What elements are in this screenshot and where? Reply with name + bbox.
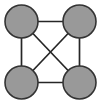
graph-node-top-right [63, 5, 96, 38]
graph-node-bottom-left [5, 66, 38, 99]
graph-figure [0, 0, 101, 107]
graph-canvas [0, 0, 101, 107]
graph-node-top-left [5, 5, 38, 38]
graph-node-bottom-right [63, 66, 96, 99]
